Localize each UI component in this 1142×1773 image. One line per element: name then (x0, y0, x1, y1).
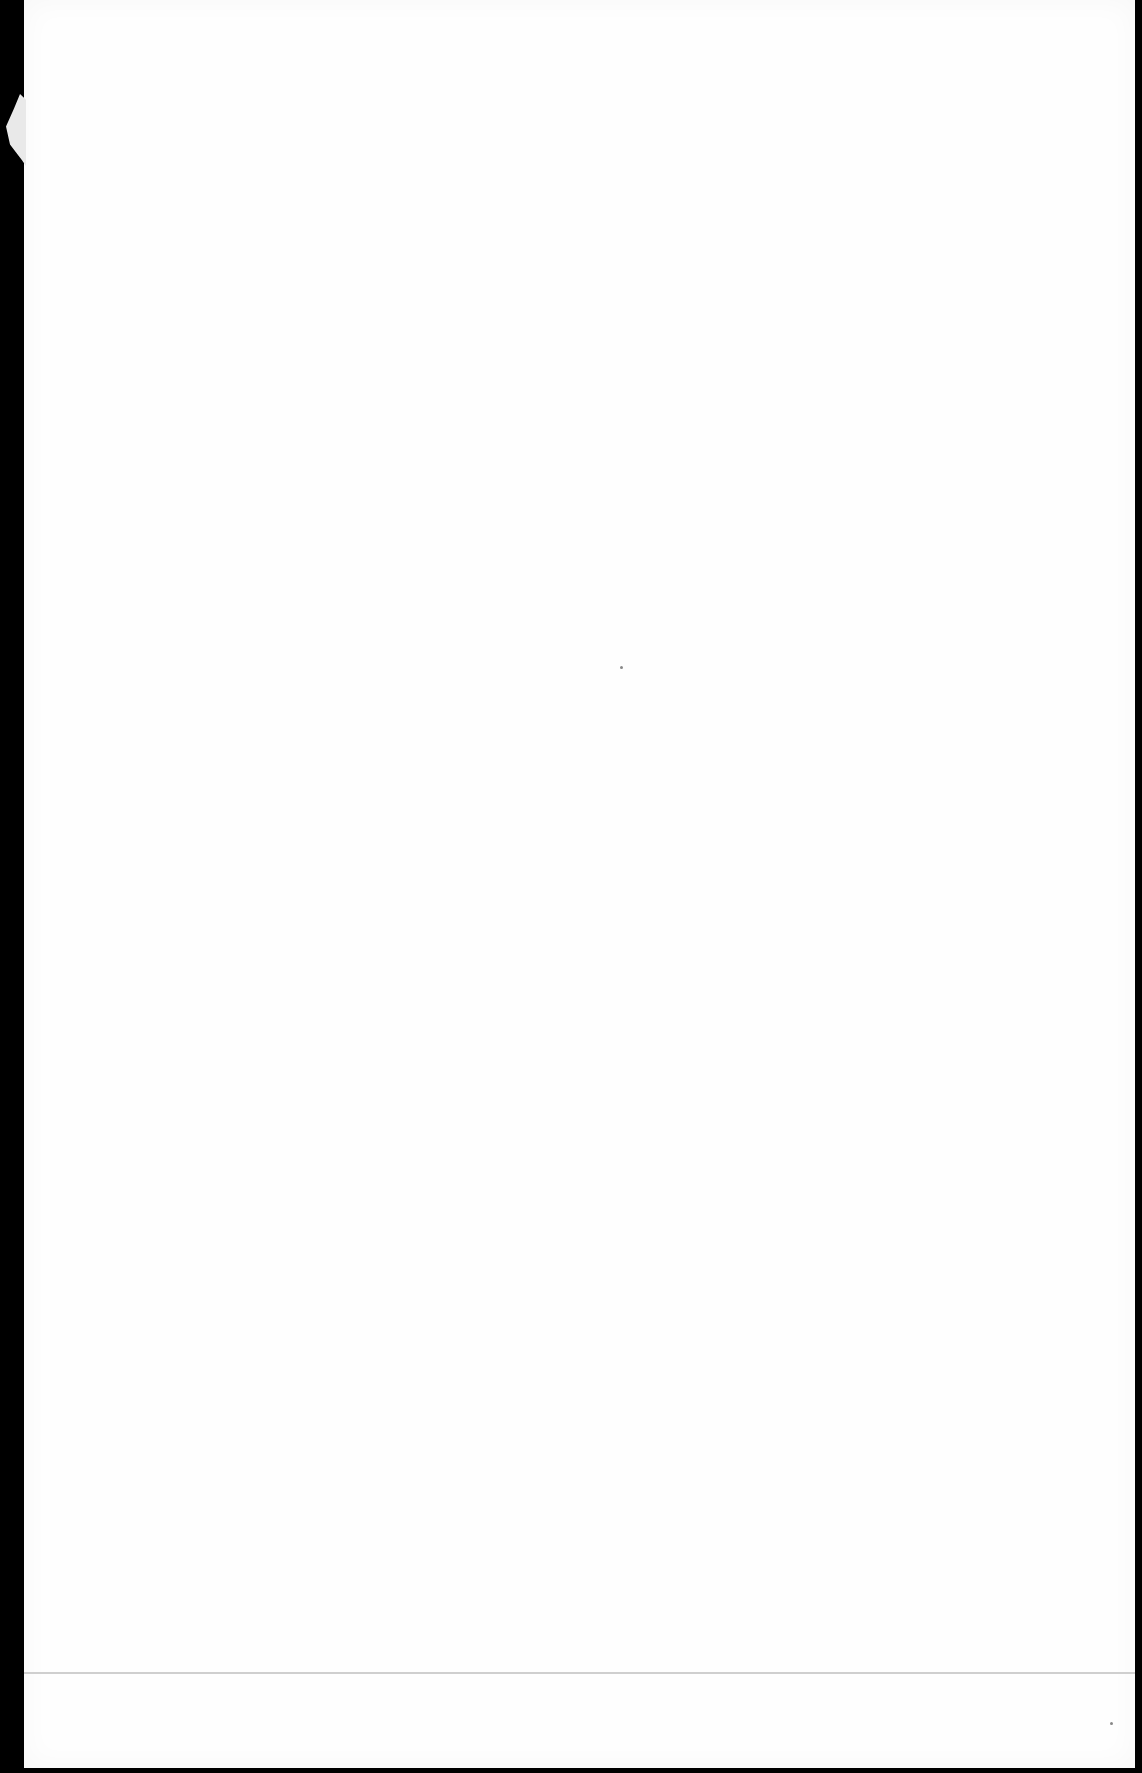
scan-speck (620, 666, 623, 669)
blank-page (24, 0, 1135, 1768)
horizontal-rule (24, 1672, 1135, 1674)
torn-edge-mark (6, 94, 26, 166)
scan-speck (1110, 1722, 1113, 1725)
